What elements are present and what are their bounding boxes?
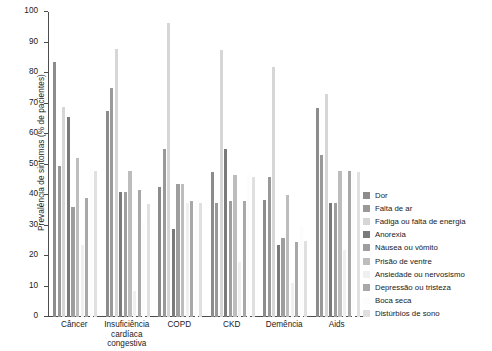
bar bbox=[286, 195, 289, 317]
legend-swatch-icon bbox=[363, 310, 370, 317]
x-tick-label-line: Insuficiência bbox=[101, 320, 154, 330]
y-tick-label: 50 bbox=[29, 159, 38, 168]
y-tick-label: 10 bbox=[29, 281, 38, 290]
bar bbox=[291, 283, 294, 317]
bar bbox=[325, 94, 328, 317]
y-tick-40: 40 bbox=[44, 194, 48, 195]
bar bbox=[215, 203, 218, 317]
bar bbox=[304, 241, 307, 317]
bar bbox=[128, 171, 131, 317]
bar bbox=[277, 245, 280, 317]
bar bbox=[338, 171, 341, 317]
y-tick-100: 100 bbox=[44, 11, 48, 12]
bar bbox=[85, 198, 88, 317]
legend-item[interactable]: Náusea ou vômito bbox=[363, 241, 492, 254]
legend-label: Fadiga ou falta de energia bbox=[375, 217, 466, 226]
y-axis-title: Prevalência de sintomas (% de pacientes) bbox=[37, 28, 46, 278]
legend-item[interactable]: Dor bbox=[363, 189, 492, 202]
bar bbox=[233, 175, 236, 317]
bar bbox=[334, 203, 337, 317]
legend-item[interactable]: Depressão ou tristeza bbox=[363, 281, 492, 294]
bar bbox=[147, 204, 150, 317]
legend-swatch-icon bbox=[363, 271, 370, 278]
legend-label: Dor bbox=[375, 191, 388, 200]
y-tick-10: 10 bbox=[44, 286, 48, 287]
legend-label: Náusea ou vômito bbox=[375, 243, 438, 252]
bar bbox=[190, 201, 193, 317]
legend-label: Boca seca bbox=[375, 296, 411, 305]
bar bbox=[142, 222, 145, 317]
y-tick-60: 60 bbox=[44, 133, 48, 134]
bar bbox=[263, 200, 266, 317]
bar bbox=[71, 207, 74, 317]
bar bbox=[81, 245, 84, 317]
bar-group bbox=[312, 12, 365, 317]
y-tick-label: 60 bbox=[29, 128, 38, 137]
bar bbox=[115, 49, 118, 317]
x-tick-label: CKD bbox=[206, 320, 259, 330]
bar bbox=[163, 149, 166, 317]
bar bbox=[281, 238, 284, 317]
legend-item[interactable]: Falta de ar bbox=[363, 202, 492, 215]
y-tick-label: 20 bbox=[29, 250, 38, 259]
bar-chart-figure: Prevalência de sintomas (% de pacientes)… bbox=[0, 0, 492, 351]
x-tick-label: Demência bbox=[258, 320, 311, 330]
y-tick-label: 70 bbox=[29, 98, 38, 107]
x-tick-label-line: cardíaca bbox=[101, 330, 154, 340]
legend-label: Falta de ar bbox=[375, 204, 412, 213]
plot-area: 0102030405060708090100 bbox=[48, 12, 363, 317]
bar bbox=[167, 23, 170, 317]
y-tick-label: 40 bbox=[29, 189, 38, 198]
legend-swatch-icon bbox=[363, 205, 370, 212]
legend-item[interactable]: Distúrbios de sono bbox=[363, 307, 492, 320]
x-tick-label: Câncer bbox=[48, 320, 101, 330]
y-tick-label: 80 bbox=[29, 67, 38, 76]
bar bbox=[176, 184, 179, 317]
x-tick-label-line: Aids bbox=[311, 320, 364, 330]
bar bbox=[186, 203, 189, 317]
y-tick-90: 90 bbox=[44, 42, 48, 43]
x-tick-label-line: congestiva bbox=[101, 339, 154, 349]
legend-item[interactable]: Anorexia bbox=[363, 228, 492, 241]
bar bbox=[316, 108, 319, 317]
bar bbox=[53, 62, 56, 317]
legend-item[interactable]: Boca seca bbox=[363, 294, 492, 307]
bar bbox=[172, 229, 175, 317]
bar bbox=[357, 172, 360, 317]
bar bbox=[67, 117, 70, 317]
x-tick-label: COPD bbox=[153, 320, 206, 330]
bar bbox=[195, 201, 198, 317]
bar bbox=[119, 192, 122, 317]
bar bbox=[138, 190, 141, 317]
legend-label: Prisão de ventre bbox=[375, 257, 432, 266]
x-tick-label-line: Demência bbox=[258, 320, 311, 330]
bar bbox=[58, 166, 61, 317]
bar bbox=[94, 171, 97, 317]
bar bbox=[295, 242, 298, 317]
bar bbox=[352, 171, 355, 317]
y-tick-80: 80 bbox=[44, 72, 48, 73]
bar bbox=[343, 250, 346, 317]
bar bbox=[252, 177, 255, 317]
legend-item[interactable]: Prisão de ventre bbox=[363, 254, 492, 267]
bar bbox=[329, 203, 332, 317]
legend-swatch-icon bbox=[363, 244, 370, 251]
bar-group bbox=[102, 12, 155, 317]
chart-legend: DorFalta de arFadiga ou falta de energia… bbox=[363, 189, 492, 320]
bar bbox=[238, 262, 241, 317]
bar bbox=[133, 291, 136, 317]
bar-group bbox=[49, 12, 102, 317]
bar-group bbox=[259, 12, 312, 317]
x-tick-label-line: COPD bbox=[153, 320, 206, 330]
bar bbox=[229, 201, 232, 317]
legend-item[interactable]: Fadiga ou falta de energia bbox=[363, 215, 492, 228]
legend-label: Distúrbios de sono bbox=[375, 309, 440, 318]
legend-label: Anorexia bbox=[375, 230, 406, 239]
bar bbox=[268, 177, 271, 317]
y-tick-label: 0 bbox=[33, 311, 38, 320]
bar bbox=[220, 50, 223, 317]
bar bbox=[124, 192, 127, 317]
x-tick-label-line: CKD bbox=[206, 320, 259, 330]
x-tick-label-line: Câncer bbox=[48, 320, 101, 330]
legend-item[interactable]: Ansiedade ou nervosismo bbox=[363, 268, 492, 281]
